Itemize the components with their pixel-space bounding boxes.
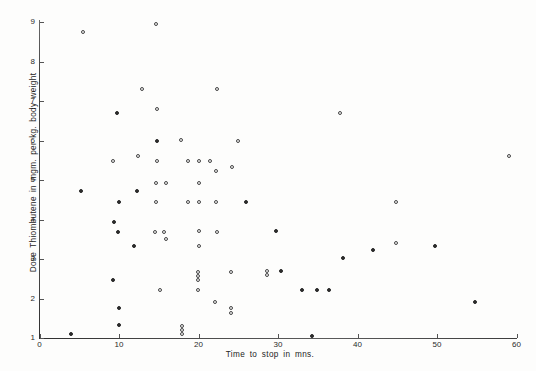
data-point: [136, 154, 140, 158]
data-point: [135, 189, 139, 193]
data-point: [155, 139, 159, 143]
x-axis-title: Time to stop in mns.: [170, 350, 370, 359]
data-point: [197, 244, 201, 248]
data-point: [179, 138, 183, 142]
x-tick-label-50: 50: [428, 340, 446, 349]
x-tick-0: [40, 334, 41, 338]
data-point: [327, 288, 331, 292]
data-point: [186, 200, 190, 204]
x-tick-label-30: 30: [269, 340, 287, 349]
data-point: [215, 87, 219, 91]
x-tick-50: [437, 334, 438, 338]
x-tick-label-40: 40: [349, 340, 367, 349]
plot-area: 123456789 0102030405060 Dose Thiombutene…: [0, 0, 536, 371]
y-tick-7: [40, 101, 44, 102]
data-point: [155, 107, 159, 111]
data-point: [371, 248, 375, 252]
x-tick-40: [358, 334, 359, 338]
data-point: [196, 288, 200, 292]
x-tick-60: [517, 334, 518, 338]
data-point: [196, 270, 200, 274]
x-tick-label-60: 60: [508, 340, 526, 349]
data-point: [229, 270, 233, 274]
x-tick-label-10: 10: [110, 340, 128, 349]
data-point: [154, 22, 158, 26]
data-point: [186, 159, 190, 163]
data-point: [164, 181, 168, 185]
data-point: [274, 229, 278, 233]
data-point: [111, 278, 115, 282]
data-point: [117, 200, 121, 204]
data-point: [265, 273, 269, 277]
data-point: [154, 181, 158, 185]
data-point: [315, 288, 319, 292]
x-tick-30: [278, 334, 279, 338]
data-point: [164, 237, 168, 241]
data-point: [81, 30, 85, 34]
y-tick-2: [40, 299, 44, 300]
y-tick-9: [40, 22, 44, 23]
data-point: [230, 165, 234, 169]
data-point: [338, 111, 342, 115]
data-point: [300, 288, 304, 292]
data-point: [116, 230, 120, 234]
data-point: [229, 306, 233, 310]
data-point: [244, 200, 248, 204]
data-point: [197, 229, 201, 233]
data-point: [507, 154, 511, 158]
data-point: [154, 200, 158, 204]
data-point: [197, 181, 201, 185]
data-point: [180, 332, 184, 336]
data-point: [236, 139, 240, 143]
x-tick-label-0: 0: [31, 340, 49, 349]
data-point: [473, 300, 477, 304]
data-point: [197, 159, 201, 163]
y-tick-8: [40, 62, 44, 63]
data-point: [69, 332, 73, 336]
data-point: [433, 244, 437, 248]
data-point: [132, 244, 136, 248]
y-tick-1: [40, 338, 44, 339]
data-point: [214, 200, 218, 204]
data-point: [196, 274, 200, 278]
data-point: [196, 278, 200, 282]
data-point: [197, 200, 201, 204]
x-tick-label-20: 20: [190, 340, 208, 349]
x-tick-10: [119, 334, 120, 338]
data-point: [394, 200, 398, 204]
data-point: [213, 300, 217, 304]
x-tick-20: [199, 334, 200, 338]
y-tick-3: [40, 259, 44, 260]
data-point: [112, 220, 116, 224]
data-point: [162, 230, 166, 234]
y-tick-6: [40, 141, 44, 142]
data-point: [117, 323, 121, 327]
data-point: [155, 159, 159, 163]
data-point: [341, 256, 345, 260]
scatter-plot-figure: 123456789 0102030405060 Dose Thiombutene…: [0, 0, 536, 371]
y-tick-5: [40, 180, 44, 181]
data-point: [153, 230, 157, 234]
data-point: [208, 159, 212, 163]
data-point: [229, 311, 233, 315]
data-point: [140, 87, 144, 91]
data-point: [214, 169, 218, 173]
data-point: [158, 288, 162, 292]
data-point: [111, 159, 115, 163]
data-point: [279, 269, 283, 273]
data-point: [117, 306, 121, 310]
data-point: [394, 241, 398, 245]
y-tick-label-9: 9: [21, 17, 35, 26]
y-axis-title: Dose Thiombutene in mgm. per kg. body we…: [29, 48, 38, 298]
y-tick-4: [40, 220, 44, 221]
data-point: [215, 230, 219, 234]
data-point: [79, 189, 83, 193]
data-point: [115, 111, 119, 115]
